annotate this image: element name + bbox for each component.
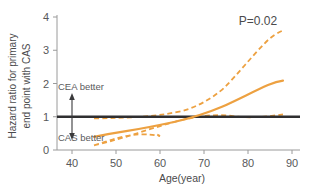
x-tick-label-80: 80: [242, 157, 254, 169]
cas-better-label: CAS better: [58, 132, 104, 143]
y-tick-label-4: 4: [43, 11, 49, 23]
x-tick-label-50: 50: [110, 157, 122, 169]
y-axis-title-line1: Hazard ratio for primary: [7, 33, 18, 138]
x-axis-title: Age(year): [159, 172, 205, 184]
hazard-ratio-chart: 0 1 2 3 4 40 50 60 70 80 90 Age(year) Ha…: [0, 0, 313, 187]
x-tick-label-60: 60: [154, 157, 166, 169]
chart-canvas: 0 1 2 3 4 40 50 60 70 80 90 Age(year) Ha…: [0, 0, 313, 187]
hazard-ratio-curve: [94, 81, 283, 137]
y-tick-label-3: 3: [43, 44, 49, 56]
upper-ci-curve: [94, 31, 283, 119]
x-axis-ticks: 40 50 60 70 80 90: [66, 150, 298, 169]
cea-better-label: CEA better: [58, 81, 104, 92]
x-tick-label-40: 40: [66, 157, 78, 169]
x-tick-label-70: 70: [198, 157, 210, 169]
p-value-annotation: P=0.02: [239, 14, 278, 28]
x-tick-label-90: 90: [286, 157, 298, 169]
y-axis-ticks: 0 1 2 3 4: [43, 11, 57, 156]
y-tick-label-0: 0: [43, 144, 49, 156]
y-tick-label-2: 2: [43, 78, 49, 90]
y-axis-title-line2: end point with CAS: [21, 43, 32, 128]
y-tick-label-1: 1: [43, 111, 49, 123]
